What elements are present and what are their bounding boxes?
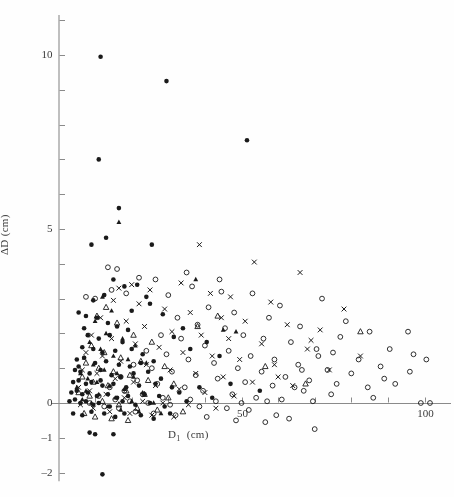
x-axis-title: D1 (cm) — [168, 428, 209, 443]
scatter-plot-figure: D1 (cm) ΔD (cm) — [0, 0, 454, 497]
x-axis-title-unit: (cm) — [187, 428, 209, 440]
scatter-plot-canvas — [0, 0, 454, 497]
x-axis-title-symbol: D — [168, 428, 176, 440]
x-axis-title-subscript: 1 — [176, 434, 180, 443]
y-axis-title: ΔD (cm) — [0, 214, 10, 255]
